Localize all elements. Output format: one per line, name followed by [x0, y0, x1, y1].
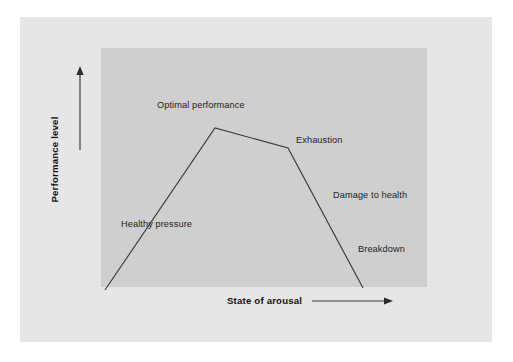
x-axis-arrow-head — [384, 297, 393, 304]
chart-graphics — [20, 17, 492, 342]
performance-curve — [105, 128, 363, 290]
chart-frame: Optimal performance Healthy pressure Exh… — [20, 17, 492, 342]
annotation-optimal-performance: Optimal performance — [157, 101, 245, 110]
annotation-breakdown: Breakdown — [358, 245, 405, 254]
x-axis-title: State of arousal — [227, 295, 302, 306]
figure-canvas: Optimal performance Healthy pressure Exh… — [0, 0, 513, 362]
annotation-exhaustion: Exhaustion — [296, 136, 342, 145]
y-axis-title: Performance level — [49, 95, 60, 225]
annotation-damage-to-health: Damage to health — [333, 191, 407, 200]
y-axis-arrow-head — [76, 66, 83, 75]
annotation-healthy-pressure: Healthy pressure — [121, 220, 192, 229]
